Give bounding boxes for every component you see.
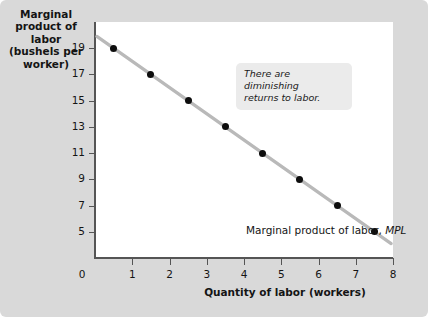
y-tick-label: 9 [57,172,85,184]
x-tick-mark [170,258,171,265]
x-tick-label: 3 [192,268,222,280]
y-tick-label: 17 [57,67,85,79]
y-tick-label: 19 [57,41,85,53]
y-tick-mark [89,206,96,207]
x-tick-mark [393,258,394,265]
y-tick-mark [89,179,96,180]
annotation-line-1: There are diminishing [244,68,345,92]
x-tick-mark [281,258,282,265]
chart-figure: Marginal product of labor (bushels per w… [0,0,428,317]
y-tick-mark [89,101,96,102]
x-tick-label: 5 [266,268,296,280]
data-point [334,202,341,209]
y-tick-label: 15 [57,94,85,106]
y-tick-mark [89,74,96,75]
x-tick-mark [319,258,320,265]
x-axis-title: Quantity of labor (workers) [150,286,420,298]
y-tick-label: 7 [57,199,85,211]
data-point [259,150,266,157]
annotation-callout: There are diminishing returns to labor. [236,63,352,110]
x-tick-label: 1 [117,268,147,280]
y-tick-label: 11 [57,146,85,158]
y-tick-mark [89,127,96,128]
annotation-line-2: returns to labor. [244,92,345,104]
y-axis-title: Marginal product of labor (bushels per w… [2,8,90,70]
x-tick-mark [132,258,133,265]
y-tick-mark [89,153,96,154]
curve-label-symbol: MPL [385,224,406,236]
y-axis-title-line-1: Marginal [2,8,90,20]
y-tick-label: 5 [57,225,85,237]
x-tick-label: 2 [155,268,185,280]
data-point [110,45,117,52]
x-tick-label: 4 [229,268,259,280]
x-tick-label: 6 [304,268,334,280]
x-tick-mark [244,258,245,265]
curve-label-text: Marginal product of labor, [246,224,382,236]
x-tick-mark [207,258,208,265]
y-tick-mark [89,48,96,49]
x-tick-label: 8 [378,268,408,280]
data-point [185,97,192,104]
y-tick-mark [89,232,96,233]
plot-area [95,22,393,258]
x-tick-label: 7 [341,268,371,280]
y-axis-line [94,22,96,259]
curve-series-label: Marginal product of labor, MPL [246,224,406,236]
x-tick-mark [356,258,357,265]
y-tick-label: 13 [57,120,85,132]
origin-tick-label: 0 [73,268,91,280]
